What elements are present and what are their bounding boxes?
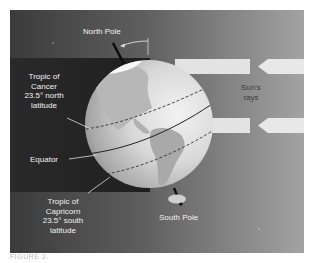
star-speck [52, 42, 53, 43]
south-pole-label: South Pole [159, 213, 198, 223]
tropic-of-cancer-label: Tropic of Cancer 23.5° north latitude [14, 72, 74, 110]
star-speck [258, 228, 259, 229]
sun-rays-line-2: rays [232, 93, 270, 103]
sun-rays-label: Sun's rays [232, 83, 270, 102]
tropic-cancer-line-1: Tropic of [14, 72, 74, 82]
south-pole-dot [179, 202, 182, 205]
equator-label: Equator [30, 155, 58, 165]
tropic-of-capricorn-label: Tropic of Capricorn 23.5° south latitude [33, 197, 93, 235]
north-pole-label: North Pole [83, 27, 121, 37]
earth-globe [85, 60, 214, 188]
sun-ray-arrow-top [175, 59, 304, 74]
tropic-capricorn-line-1: Tropic of [33, 197, 93, 207]
tropic-capricorn-line-3: 23.5° south [33, 216, 93, 226]
tropic-capricorn-line-2: Capricorn [33, 207, 93, 217]
tropic-cancer-line-3: 23.5° north [14, 91, 74, 101]
tropic-capricorn-line-4: latitude [33, 226, 93, 236]
figure-caption-partial: FIGURE 2- [10, 253, 304, 261]
sun-rays-line-1: Sun's [232, 83, 270, 93]
tropic-cancer-line-2: Cancer [14, 82, 74, 92]
antarctica-landmass [168, 195, 186, 204]
tropic-cancer-line-4: latitude [14, 101, 74, 111]
